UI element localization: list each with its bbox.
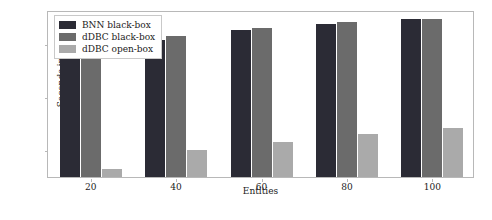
bar [316, 24, 336, 177]
legend-swatch-icon [59, 21, 76, 29]
bar [145, 40, 165, 177]
legend-swatch-icon [59, 45, 76, 53]
bar [422, 19, 442, 177]
bar [337, 22, 357, 177]
x-axis-label: Entities [47, 186, 474, 196]
legend-label: dDBC black-box [82, 32, 155, 42]
bar [358, 134, 378, 177]
bar [81, 54, 101, 177]
legend-item: BNN black-box [59, 19, 155, 31]
bar [252, 28, 272, 177]
bar [443, 128, 463, 177]
y-tick-mark [45, 98, 48, 99]
chart-legend: BNN black-boxdDBC black-boxdDBC open-box [54, 15, 162, 59]
bar [273, 142, 293, 178]
y-tick-mark [45, 151, 48, 152]
bar-chart-figure: Seconds in log scale 102103104 204060801… [0, 0, 492, 220]
bar [166, 36, 186, 177]
bar [187, 150, 207, 177]
y-tick-mark [45, 45, 48, 46]
legend-swatch-icon [59, 33, 76, 41]
legend-label: dDBC open-box [82, 44, 153, 54]
legend-item: dDBC open-box [59, 43, 155, 55]
bar [60, 57, 80, 177]
legend-item: dDBC black-box [59, 31, 155, 43]
bar [401, 19, 421, 177]
plot-area: Seconds in log scale 102103104 204060801… [47, 11, 474, 178]
bar [102, 169, 122, 177]
bar [231, 30, 251, 177]
legend-label: BNN black-box [82, 20, 151, 30]
